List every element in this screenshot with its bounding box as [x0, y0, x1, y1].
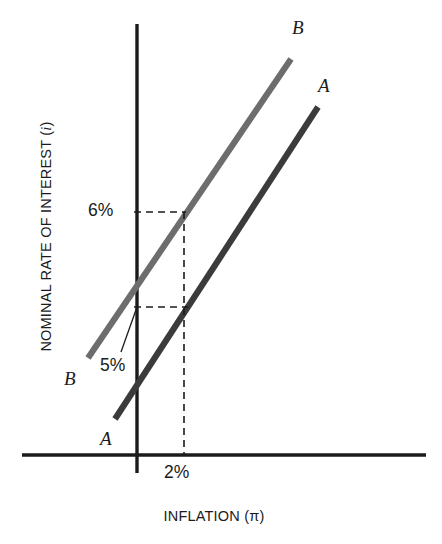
series-label-b-lower: B — [64, 368, 76, 390]
y-tick-label-5pct: 5% — [100, 355, 125, 376]
series-label-a-lower: A — [100, 428, 112, 450]
figure-container: NOMINAL RATE OF INTEREST (i) INFLATION (… — [0, 0, 442, 544]
y-tick-label-6pct: 6% — [88, 200, 113, 221]
series-line-b — [88, 59, 291, 358]
x-axis-title: INFLATION (π) — [124, 508, 304, 524]
x-axis-title-symbol-wrap: (π) — [240, 508, 265, 524]
x-tick-label-2pct: 2% — [164, 462, 189, 483]
y-axis-title-symbol-wrap: (i) — [38, 121, 54, 140]
leader-line-5pct — [121, 307, 137, 352]
y-axis-title-text: NOMINAL RATE OF INTEREST — [38, 140, 54, 352]
x-axis-title-text: INFLATION — [164, 508, 240, 524]
y-axis-title-symbol: i — [38, 126, 54, 130]
series-label-b-upper: B — [292, 17, 304, 39]
series-label-a-upper: A — [318, 75, 330, 97]
chart-plot-area — [0, 0, 442, 544]
x-axis-title-symbol: π — [249, 508, 259, 524]
y-axis-title: NOMINAL RATE OF INTEREST (i) — [38, 87, 55, 387]
series-line-a — [115, 107, 318, 419]
